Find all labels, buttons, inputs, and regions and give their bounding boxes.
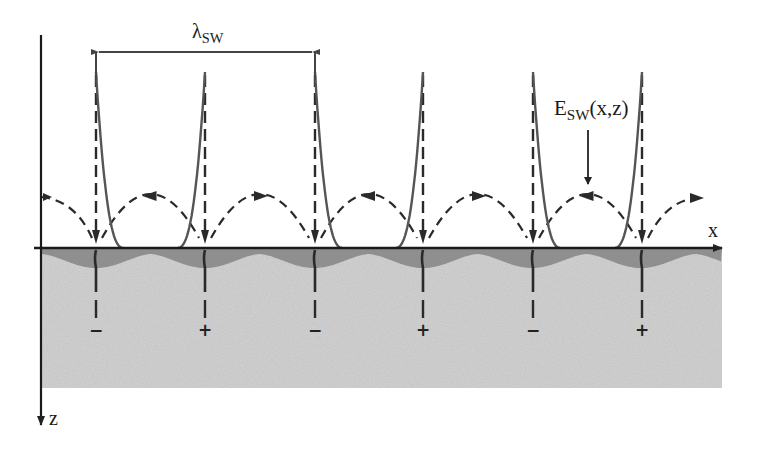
envelope-curve bbox=[178, 72, 205, 248]
substrate bbox=[41, 248, 722, 388]
field-symbol: E bbox=[554, 96, 567, 120]
surface-wave-diagram bbox=[0, 0, 757, 449]
z-axis-label: z bbox=[49, 407, 58, 430]
negative-charge: − bbox=[89, 320, 103, 340]
wavelength-label: λSW bbox=[192, 20, 223, 47]
positive-charge: + bbox=[198, 320, 212, 340]
field-subscript: SW bbox=[567, 107, 590, 123]
field-arc bbox=[211, 194, 309, 238]
negative-charge: − bbox=[526, 320, 540, 340]
field-arc bbox=[539, 194, 636, 238]
field-arc bbox=[321, 194, 417, 238]
negative-charge: − bbox=[308, 320, 322, 340]
field-label: ESW(x,z) bbox=[554, 96, 629, 124]
field-arc bbox=[648, 198, 697, 238]
envelope-curve bbox=[315, 72, 342, 248]
field-line-arcs bbox=[41, 191, 704, 238]
field-arc bbox=[41, 197, 92, 238]
lambda-subscript: SW bbox=[202, 30, 224, 46]
field-args: (x,z) bbox=[590, 96, 629, 120]
field-arc bbox=[429, 194, 527, 238]
positive-charge: + bbox=[416, 320, 430, 340]
envelope-curve bbox=[396, 72, 423, 248]
lambda-symbol: λ bbox=[192, 20, 202, 42]
envelope-curve bbox=[96, 72, 123, 248]
field-arc bbox=[102, 194, 199, 238]
positive-charge: + bbox=[635, 320, 649, 340]
x-axis-label: x bbox=[708, 219, 718, 242]
